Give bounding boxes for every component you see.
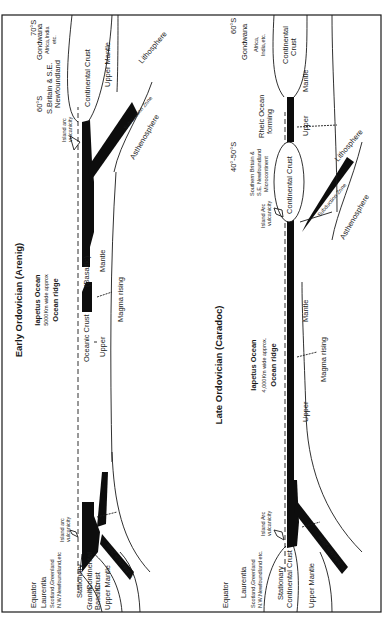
label-laurentia: Laurentia bbox=[39, 576, 48, 608]
label-vulcanicity: vulcanicity bbox=[67, 116, 73, 142]
label-laurentia: Laurentia bbox=[239, 566, 248, 598]
label-vulcanicity: vulcanicity bbox=[65, 516, 71, 542]
label-latitude: 60°S bbox=[35, 96, 44, 112]
label-stationary: Stationary bbox=[276, 566, 285, 600]
label-continental-crust: Continental Crust bbox=[285, 549, 294, 608]
label-gondwana-sub: Africa, bbox=[253, 36, 259, 52]
label-continental-crust: Continental Crust bbox=[285, 155, 294, 214]
label-regions: N.W.Newfoundland etc. bbox=[257, 550, 263, 608]
label-continental-crust: Continental Crust bbox=[83, 48, 92, 107]
label-upper: Upper bbox=[98, 336, 107, 357]
label-equator: Equator bbox=[29, 581, 38, 608]
panel-early-ordovician: Early Ordovician (Arenig) bbox=[13, 15, 169, 612]
label-gondwana: Gondwana bbox=[35, 23, 44, 60]
label-regions: N.W.Newfoundland,etc bbox=[56, 552, 62, 608]
label-upper: Upper bbox=[301, 401, 310, 422]
label-rheic-forming: forming bbox=[265, 109, 274, 134]
oceanic-crust bbox=[287, 217, 294, 480]
label-regions: Scotland,Greenland bbox=[250, 559, 256, 608]
label-microcontinent: Southern Britain & bbox=[249, 151, 255, 196]
subduction-slab-right bbox=[88, 102, 138, 182]
panel-late-ordovician: Late Ordovician (Caradoc) bbox=[213, 15, 371, 612]
label-upper: Upper bbox=[301, 115, 310, 136]
label-upper-mantle: Upper Mantle bbox=[103, 42, 112, 87]
label-stationary: Stationary bbox=[75, 564, 84, 598]
volcano-icon bbox=[274, 530, 284, 540]
label-crust: Crust bbox=[289, 37, 298, 56]
label-magma-rising: Magma rising bbox=[319, 337, 328, 382]
label-latitude: 40°-50°S bbox=[229, 142, 238, 172]
label-ocean-ridge: Ocean ridge bbox=[269, 343, 278, 386]
label-vulcanicity: vulcanicity bbox=[266, 200, 272, 226]
label-gondwana-sub: India,etc. bbox=[260, 33, 266, 56]
label-iapetus-ocean: Iapetus Ocean bbox=[33, 274, 42, 326]
label-ocean-width: 4,000Km wide approx. bbox=[261, 337, 267, 392]
label-ocean-ridge: Ocean ridge bbox=[51, 278, 60, 321]
volcano-icon bbox=[70, 530, 78, 537]
label-gondwana-sub: etc. bbox=[51, 35, 57, 44]
label-magma-rising: Magma rising bbox=[116, 277, 125, 322]
label-mantle: Mantle bbox=[301, 299, 310, 322]
label-ocean-width: 5000Km wide approx bbox=[43, 274, 49, 326]
oceanic-crust-main bbox=[82, 120, 94, 247]
magma-squiggle-ridge bbox=[297, 352, 317, 357]
gondwana-crust-top bbox=[68, 15, 79, 122]
label-gondwana-sub: Africa,India bbox=[44, 26, 50, 54]
label-region: Newfoundland bbox=[53, 60, 62, 108]
label-asthenosphere: Asthenosphere bbox=[338, 193, 371, 241]
label-iapetus-ocean: Iapetus Ocean bbox=[249, 339, 258, 391]
panel-title: Early Ordovician (Arenig) bbox=[13, 243, 24, 358]
label-mantle: Mantle bbox=[98, 249, 107, 272]
label-upper-mantle: Upper Mantle bbox=[307, 563, 316, 608]
label-oceanic-crust: Oceanic Crust bbox=[82, 314, 91, 362]
label-basaltic: (Basaltic) bbox=[82, 255, 91, 287]
label-vulcanicity: vulcanicity bbox=[266, 510, 272, 536]
label-latitude: 60°S bbox=[229, 18, 238, 34]
label-upper-mantle: Upper Mantle bbox=[103, 565, 112, 610]
label-equator: Equator bbox=[221, 581, 230, 608]
panel-title: Late Ordovician (Caradoc) bbox=[213, 306, 224, 425]
label-lithosphere: Lithosphere bbox=[333, 127, 365, 163]
rheic-crust bbox=[287, 97, 294, 142]
magma-squiggle-ridge bbox=[97, 292, 112, 297]
label-microcontinent: S.E. Newfoundland bbox=[256, 149, 262, 196]
label-microcontinent: Microcontinent bbox=[263, 156, 269, 192]
label-subduction-zone: Subduction Zone bbox=[316, 535, 346, 571]
label-lithosphere: Lithosphere bbox=[137, 29, 169, 65]
ordovician-diagram: Early Ordovician (Arenig) bbox=[0, 0, 384, 619]
gondwana-mantle bbox=[117, 15, 118, 92]
label-crust: Crust bbox=[93, 571, 102, 590]
label-mantle: Mantle bbox=[301, 69, 310, 92]
upper-mantle-line bbox=[320, 552, 332, 612]
label-gondwana: Gondwana bbox=[240, 23, 249, 60]
label-regions: Scotland,Greenland bbox=[49, 559, 55, 608]
oceanic-crust-left bbox=[97, 472, 108, 527]
